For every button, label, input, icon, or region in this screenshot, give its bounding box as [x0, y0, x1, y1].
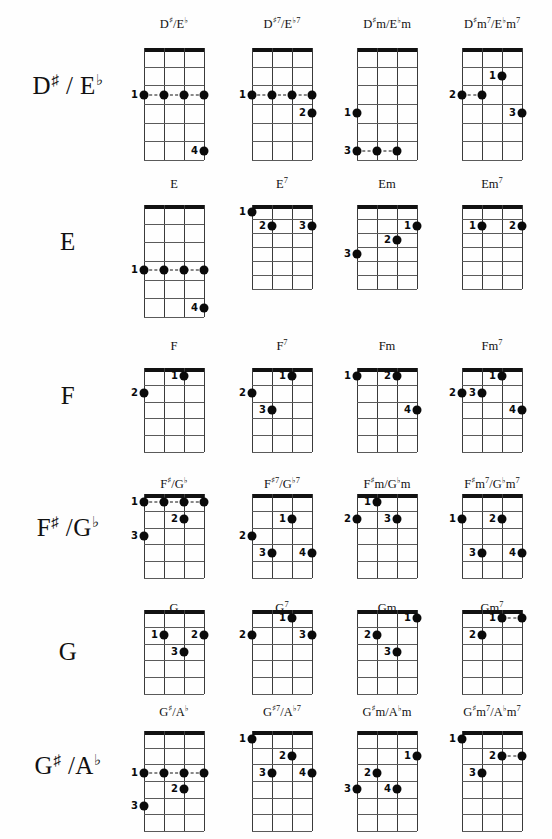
fret-line [252, 160, 312, 161]
fret-line [144, 561, 204, 562]
fret-line [144, 141, 204, 142]
finger-number: 2 [259, 221, 266, 231]
fret-line [252, 402, 312, 403]
finger-number: 3 [384, 647, 391, 657]
chord-diagram: Gm712 [432, 602, 552, 710]
string-line [164, 368, 165, 452]
fret-line [357, 694, 417, 695]
chord-diagram: Gm123 [327, 602, 447, 710]
fret-line [144, 677, 204, 678]
finger-number: 2 [344, 514, 351, 524]
finger-number: 1 [239, 90, 246, 100]
fret-line [462, 748, 522, 749]
finger-dot [518, 406, 527, 415]
finger-dot [498, 515, 507, 524]
finger-number: 2 [131, 388, 138, 398]
fretboard-grid: 123 [144, 731, 204, 831]
finger-number: 2 [449, 90, 456, 100]
finger-number: 1 [489, 371, 496, 381]
string-line [272, 610, 273, 694]
chord-diagram: Fm124 [327, 340, 447, 468]
finger-dot [160, 266, 169, 275]
finger-number: 3 [469, 548, 476, 558]
string-line [522, 48, 523, 160]
chord-diagram: Fm71234 [432, 340, 552, 468]
nut-bar [462, 731, 522, 735]
finger-number: 4 [299, 548, 306, 558]
barre-indicator [144, 94, 204, 95]
fretboard-grid: 123 [462, 731, 522, 831]
fretboard-grid: 1234 [252, 494, 312, 578]
fretboard-grid: 123 [144, 610, 204, 694]
finger-dot [353, 109, 362, 118]
string-line [292, 494, 293, 578]
fret-line [252, 528, 312, 529]
finger-dot [478, 222, 487, 231]
fret-line [144, 435, 204, 436]
fret-line [357, 544, 417, 545]
fret-line [252, 123, 312, 124]
finger-dot [180, 498, 189, 507]
fret-line [462, 831, 522, 832]
chord-diagram: Em123 [327, 178, 447, 305]
finger-dot [200, 90, 209, 99]
fret-line [462, 141, 522, 142]
finger-number: 1 [279, 371, 286, 381]
fret-line [357, 561, 417, 562]
finger-dot [160, 768, 169, 777]
chord-diagram: G♯m/A♭m1234 [327, 706, 447, 839]
fretboard-grid: 123 [252, 610, 312, 694]
fret-line [462, 85, 522, 86]
string-line [312, 731, 313, 831]
finger-dot [518, 222, 527, 231]
chord-diagram: E7123 [222, 178, 342, 305]
fret-line [252, 261, 312, 262]
finger-dot [478, 389, 487, 398]
finger-dot [308, 768, 317, 777]
string-line [204, 48, 205, 160]
chord-diagram: G♯7/A♭71234 [222, 706, 342, 839]
fret-line [462, 435, 522, 436]
finger-dot [393, 515, 402, 524]
finger-number: 3 [344, 784, 351, 794]
fretboard-grid: 12 [462, 205, 522, 289]
chord-diagram: F12 [114, 340, 234, 468]
chord-diagram: G123 [114, 602, 234, 710]
fret-line [252, 104, 312, 105]
fret-line [144, 627, 204, 628]
string-line [312, 368, 313, 452]
fret-line [357, 275, 417, 276]
finger-number: 3 [344, 146, 351, 156]
fret-line [357, 160, 417, 161]
chord-name: D♯7/E♭7 [264, 18, 301, 31]
finger-dot [200, 146, 209, 155]
fretboard-grid: 123 [462, 48, 522, 160]
finger-number: 2 [191, 630, 198, 640]
fret-line [144, 385, 204, 386]
finger-dot [478, 90, 487, 99]
fret-line [252, 247, 312, 248]
fret-line [462, 544, 522, 545]
finger-number: 2 [239, 630, 246, 640]
fret-line [357, 748, 417, 749]
finger-dot [498, 372, 507, 381]
chord-name: D♯m/E♭m [363, 18, 411, 31]
fret-line [357, 528, 417, 529]
finger-dot [288, 614, 297, 623]
fret-line [462, 677, 522, 678]
string-line [204, 731, 205, 831]
finger-number: 2 [239, 388, 246, 398]
finger-dot [180, 266, 189, 275]
finger-number: 4 [404, 405, 411, 415]
finger-dot [308, 109, 317, 118]
fret-line [357, 764, 417, 765]
string-line [377, 368, 378, 452]
barre-indicator [252, 94, 312, 95]
finger-number: 3 [259, 548, 266, 558]
fretboard-grid: 12 [462, 610, 522, 694]
finger-dot [200, 631, 209, 640]
finger-dot [353, 785, 362, 794]
finger-dot [478, 631, 487, 640]
fret-line [144, 694, 204, 695]
finger-dot [413, 406, 422, 415]
